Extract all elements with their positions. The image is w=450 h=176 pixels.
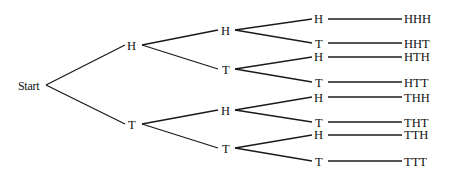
level3-node-htt: T	[315, 76, 323, 90]
edge-tt-tth	[235, 135, 312, 148]
level2-node-th: H	[221, 104, 230, 118]
edge-ht-htt	[235, 69, 312, 82]
edge-hh-hht	[235, 30, 312, 43]
edge-start-t	[46, 85, 125, 124]
tree-diagram: Start H T H T H T H T H T H T H T HHH HH…	[0, 0, 450, 176]
outcome-hhh: HHH	[404, 12, 431, 26]
edge-ht-hth	[235, 57, 312, 69]
level3-node-tth: H	[314, 128, 323, 142]
outcome-tth: TTH	[404, 128, 428, 142]
edge-h-hh	[142, 30, 218, 45]
level3-node-hhh: H	[314, 12, 323, 26]
edge-th-thh	[235, 97, 312, 110]
level2-node-ht: T	[222, 63, 230, 77]
level1-node-t: T	[128, 118, 136, 132]
level2-node-tt: T	[222, 142, 230, 156]
level3-node-thh: H	[314, 91, 323, 105]
outcome-ttt: TTT	[404, 155, 427, 169]
start-node: Start	[18, 79, 39, 93]
edge-h-ht	[142, 45, 218, 69]
edge-start-h	[46, 45, 125, 85]
level3-node-ttt: T	[315, 155, 323, 169]
edge-th-tht	[235, 110, 312, 122]
level1-node-h: H	[127, 39, 136, 53]
edge-t-th	[142, 110, 218, 124]
level3-node-hth: H	[314, 50, 323, 64]
outcome-htt: HTT	[404, 76, 428, 90]
edge-hh-hhh	[235, 19, 312, 30]
outcome-hth: HTH	[404, 50, 430, 64]
edge-tt-ttt	[235, 148, 312, 161]
level2-node-hh: H	[221, 24, 230, 38]
edge-t-tt	[142, 124, 218, 148]
outcome-thh: THH	[404, 91, 430, 105]
level3-node-hht: T	[315, 37, 323, 51]
outcome-hht: HHT	[404, 37, 430, 51]
